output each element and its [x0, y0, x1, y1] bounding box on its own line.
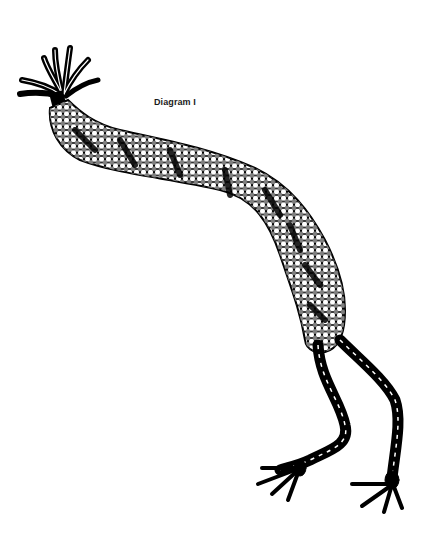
left-braided-leg — [280, 345, 346, 470]
beaded-figure-illustration — [0, 0, 439, 534]
right-braided-leg — [340, 340, 398, 478]
left-foot-tassel — [258, 460, 306, 500]
top-tassel — [20, 48, 98, 96]
right-foot-tassel — [352, 471, 402, 512]
